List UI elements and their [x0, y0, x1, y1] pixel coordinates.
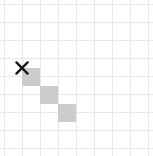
- grid-line-horizontal-5: [0, 94, 153, 95]
- grid-line-vertical-4: [76, 0, 77, 156]
- grid-line-vertical-8: [148, 0, 149, 156]
- grid-line-horizontal-0: [0, 4, 153, 5]
- grid-canvas: [0, 0, 153, 156]
- grid-line-horizontal-1: [0, 22, 153, 23]
- filled-cell-1[interactable]: [40, 86, 58, 104]
- grid-line-vertical-7: [130, 0, 131, 156]
- grid-line-vertical-6: [112, 0, 113, 156]
- grid-line-horizontal-6: [0, 112, 153, 113]
- grid-line-vertical-2: [40, 0, 41, 156]
- filled-cell-0[interactable]: [22, 68, 40, 86]
- filled-cell-2[interactable]: [58, 104, 76, 122]
- grid-line-vertical-3: [58, 0, 59, 156]
- grid-line-vertical-5: [94, 0, 95, 156]
- grid-line-vertical-0: [4, 0, 5, 156]
- grid-line-horizontal-3: [0, 58, 153, 59]
- grid-line-horizontal-7: [0, 130, 153, 131]
- grid-line-horizontal-8: [0, 148, 153, 149]
- grid-line-horizontal-2: [0, 40, 153, 41]
